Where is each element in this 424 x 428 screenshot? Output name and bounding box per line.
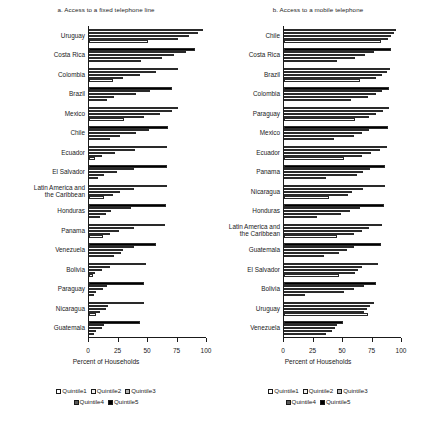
- panel-a-bar-quintile1: [89, 274, 93, 276]
- legend-swatch-icon: [268, 389, 273, 394]
- panel-a-category-label: Nicaragua: [1, 305, 85, 312]
- legend-swatch-icon: [337, 389, 342, 394]
- legend-swatch-icon: [286, 400, 291, 405]
- panel-a-bar-quintile1: [89, 235, 103, 237]
- panel-b-category-label: Venezuela: [213, 324, 280, 331]
- legend-swatch-icon: [56, 389, 61, 394]
- panel-b-bar-quintile1: [284, 118, 355, 120]
- panel-a-bar-quintile1: [89, 60, 141, 62]
- panel-b-xtick: [372, 338, 373, 342]
- panel-a-xtick: [206, 338, 207, 342]
- panel-a-category-label: Guatemala: [1, 324, 85, 331]
- panel-a-legend-label: Quintile5: [114, 398, 138, 405]
- panel-a-legend-item[interactable]: Quintile1: [56, 385, 86, 396]
- panel-b-legend-item[interactable]: Quintile3: [337, 385, 367, 396]
- panel-b-bar-group: [284, 65, 401, 85]
- panel-b-bar-quintile1: [284, 255, 324, 257]
- panel-b-xtick-label: 50: [338, 347, 345, 354]
- panel-b-legend-item[interactable]: Quintile4: [286, 396, 316, 407]
- panel-a-category-label: Panama: [1, 227, 85, 234]
- panel-b-category-label: Nicaragua: [213, 188, 280, 195]
- panel-a-bar-group: [89, 163, 206, 183]
- panel-a-bar-quintile1: [89, 177, 98, 179]
- panel-b-bar-quintile1: [284, 294, 305, 296]
- panel-b-bar-group: [284, 46, 401, 66]
- panel-b-legend-item[interactable]: Quintile1: [268, 385, 298, 396]
- panel-a-legend-item[interactable]: Quintile5: [108, 396, 138, 407]
- panel-b-bar-group: [284, 143, 401, 163]
- panel-b-category-label: Uruguay: [213, 305, 280, 312]
- panel-a-legend-item[interactable]: Quintile4: [74, 396, 104, 407]
- panel-b-xtick-label: 100: [396, 347, 407, 354]
- panel-a-category-label: Brazil: [1, 90, 85, 97]
- panel-a-legend-label: Quintile3: [131, 387, 155, 394]
- panel-a-category-label: Chile: [1, 129, 85, 136]
- panel-a-bar-group: [89, 26, 206, 46]
- panel-b-category-label: Latin America and the Caribbean: [213, 223, 280, 237]
- panel-fixed-telephone: a. Access to a fixed telephone line 0255…: [0, 0, 212, 428]
- panel-a-bar-quintile1: [89, 99, 107, 101]
- panel-b-legend-label: Quintile2: [309, 387, 333, 394]
- panel-b-bar-group: [284, 182, 401, 202]
- panel-a-legend-item[interactable]: Quintile2: [91, 385, 121, 396]
- panel-a-legend-label: Quintile1: [62, 387, 86, 394]
- panel-a-legend-item[interactable]: Quintile3: [125, 385, 155, 396]
- panel-b-title: b. Access to a mobile telephone: [212, 6, 424, 13]
- panel-a-bar-group: [89, 143, 206, 163]
- panel-a-bar-quintile1: [89, 40, 148, 42]
- panel-a-bar-quintile1: [89, 118, 124, 120]
- panel-a-category-label: El Salvador: [1, 168, 85, 175]
- panel-b-bar-quintile1: [284, 40, 381, 42]
- panel-a-category-label: Colombia: [1, 71, 85, 78]
- panel-a-category-label: Mexico: [1, 110, 85, 117]
- panel-b-category-label: Honduras: [213, 207, 280, 214]
- panel-b-bar-quintile1: [284, 79, 360, 81]
- panel-b-category-label: Costa Rica: [213, 51, 280, 58]
- panel-a-legend-label: Quintile4: [80, 398, 104, 405]
- panel-b-xtick-label: 25: [309, 347, 316, 354]
- panel-a-plot-area: 0255075100: [88, 26, 206, 338]
- panel-b-legend-item[interactable]: Quintile2: [303, 385, 333, 396]
- panel-b-category-label: Mexico: [213, 129, 280, 136]
- panel-b-legend-item[interactable]: Quintile5: [320, 396, 350, 407]
- panel-a-legend: Quintile1Quintile2Quintile3Quintile4Quin…: [0, 385, 212, 407]
- panel-a-xtick: [118, 338, 119, 342]
- panel-a-bar-group: [89, 124, 206, 144]
- panel-a-category-label: Uruguay: [1, 32, 85, 39]
- panel-b-category-label: Chile: [213, 32, 280, 39]
- panel-a-bar-group: [89, 182, 206, 202]
- panel-b-bar-group: [284, 124, 401, 144]
- panel-a-category-label: Venezuela: [1, 246, 85, 253]
- panel-a-bar-quintile1: [89, 216, 100, 218]
- panel-b-bar-quintile1: [284, 313, 368, 315]
- panel-a-category-label: Paraguay: [1, 285, 85, 292]
- panel-b-bar-quintile1: [284, 177, 326, 179]
- panel-b-category-label: El Salvador: [213, 266, 280, 273]
- panel-b-legend-row2: Quintile4Quintile5: [212, 396, 424, 407]
- panel-b-bar-group: [284, 319, 401, 339]
- panel-mobile-telephone: b. Access to a mobile telephone 02550751…: [212, 0, 424, 428]
- panel-b-legend-label: Quintile3: [343, 387, 367, 394]
- panel-b-bar-quintile1: [284, 274, 339, 276]
- panel-b-xtick: [342, 338, 343, 342]
- panel-b-legend: Quintile1Quintile2Quintile3Quintile4Quin…: [212, 385, 424, 407]
- figure-container: a. Access to a fixed telephone line 0255…: [0, 0, 424, 428]
- panel-a-xtick-label: 100: [201, 347, 212, 354]
- panel-a-bar-quintile1: [89, 255, 114, 257]
- panel-b-bar-group: [284, 26, 401, 46]
- panel-a-bar-group: [89, 241, 206, 261]
- panel-b-bar-quintile1: [284, 216, 317, 218]
- panel-b-bar-group: [284, 299, 401, 319]
- panel-a-xlabel: Percent of Households: [0, 358, 212, 365]
- panel-a-xtick-label: 0: [86, 347, 90, 354]
- panel-a-category-label: Bolivia: [1, 266, 85, 273]
- panel-b-category-label: Brazil: [213, 71, 280, 78]
- panel-a-xtick-label: 50: [143, 347, 150, 354]
- panel-a-bar-group: [89, 221, 206, 241]
- panel-a-category-label: Ecuador: [1, 149, 85, 156]
- panel-a-bar-quintile1: [89, 313, 96, 315]
- panel-b-bar-group: [284, 280, 401, 300]
- panel-a-category-label: Latin America and the Caribbean: [1, 184, 85, 198]
- panel-b-xtick-label: 0: [281, 347, 285, 354]
- panel-b-plot-area: 0255075100: [283, 26, 401, 338]
